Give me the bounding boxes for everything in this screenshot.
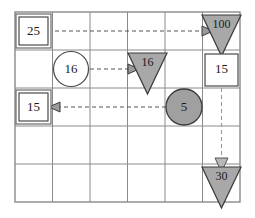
diagram-canvas: 25 100 16 16 15 15 [0,0,255,218]
node-circle-5[interactable]: 5 [166,89,202,125]
node-box-15-left[interactable]: 15 [16,90,51,124]
box-25-label: 25 [27,23,40,38]
triangle-16-label: 16 [142,55,154,69]
triangle-30-label: 30 [216,169,228,183]
node-box-25[interactable]: 25 [16,14,51,48]
circle-5-label: 5 [181,99,188,114]
box-15-right-label: 15 [215,61,228,76]
node-box-15-right[interactable]: 15 [205,54,238,86]
box-15-left-label: 15 [27,99,40,114]
node-circle-16[interactable]: 16 [54,52,89,87]
triangle-100-label: 100 [213,17,231,31]
circle-16-label: 16 [65,61,79,76]
grid-flow-diagram: 25 100 16 16 15 15 [0,0,255,218]
